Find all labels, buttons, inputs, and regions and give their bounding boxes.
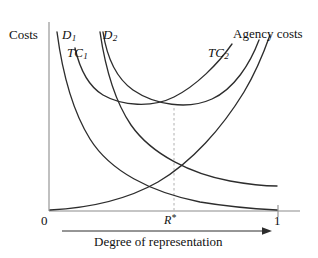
figure-container: Costs Agency costs D1 D2 TC1 TC2 0 1 R* … [0,0,318,258]
x-tick-label-optimum: R* [164,214,176,226]
x-tick-label-one: 1 [274,214,281,227]
curve-label-agency-costs: Agency costs [233,27,303,40]
curve-label-d1-base: D [62,27,71,42]
curve-d2 [100,32,277,186]
curve-label-tc1: TC1 [67,46,88,61]
curve-tc2 [103,32,259,105]
curve-label-tc1-base: TC [67,45,83,60]
curve-label-d2-sub: 2 [113,33,118,43]
curve-label-tc2: TC2 [208,46,229,61]
curve-label-d2: D2 [103,28,117,43]
x-axis-label: Degree of representation [94,235,223,248]
curve-label-tc1-sub: 1 [83,51,88,61]
curve-label-d1-sub: 1 [72,33,77,43]
curve-label-tc2-sub: 2 [224,51,229,61]
optimum-label-star: * [172,213,177,223]
curve-label-d2-base: D [103,27,112,42]
curve-label-d1: D1 [62,28,76,43]
curve-label-tc2-base: TC [208,45,224,60]
optimum-label-base: R [164,213,171,227]
x-tick-label-zero: 0 [41,214,48,227]
y-axis-label: Costs [9,28,38,41]
